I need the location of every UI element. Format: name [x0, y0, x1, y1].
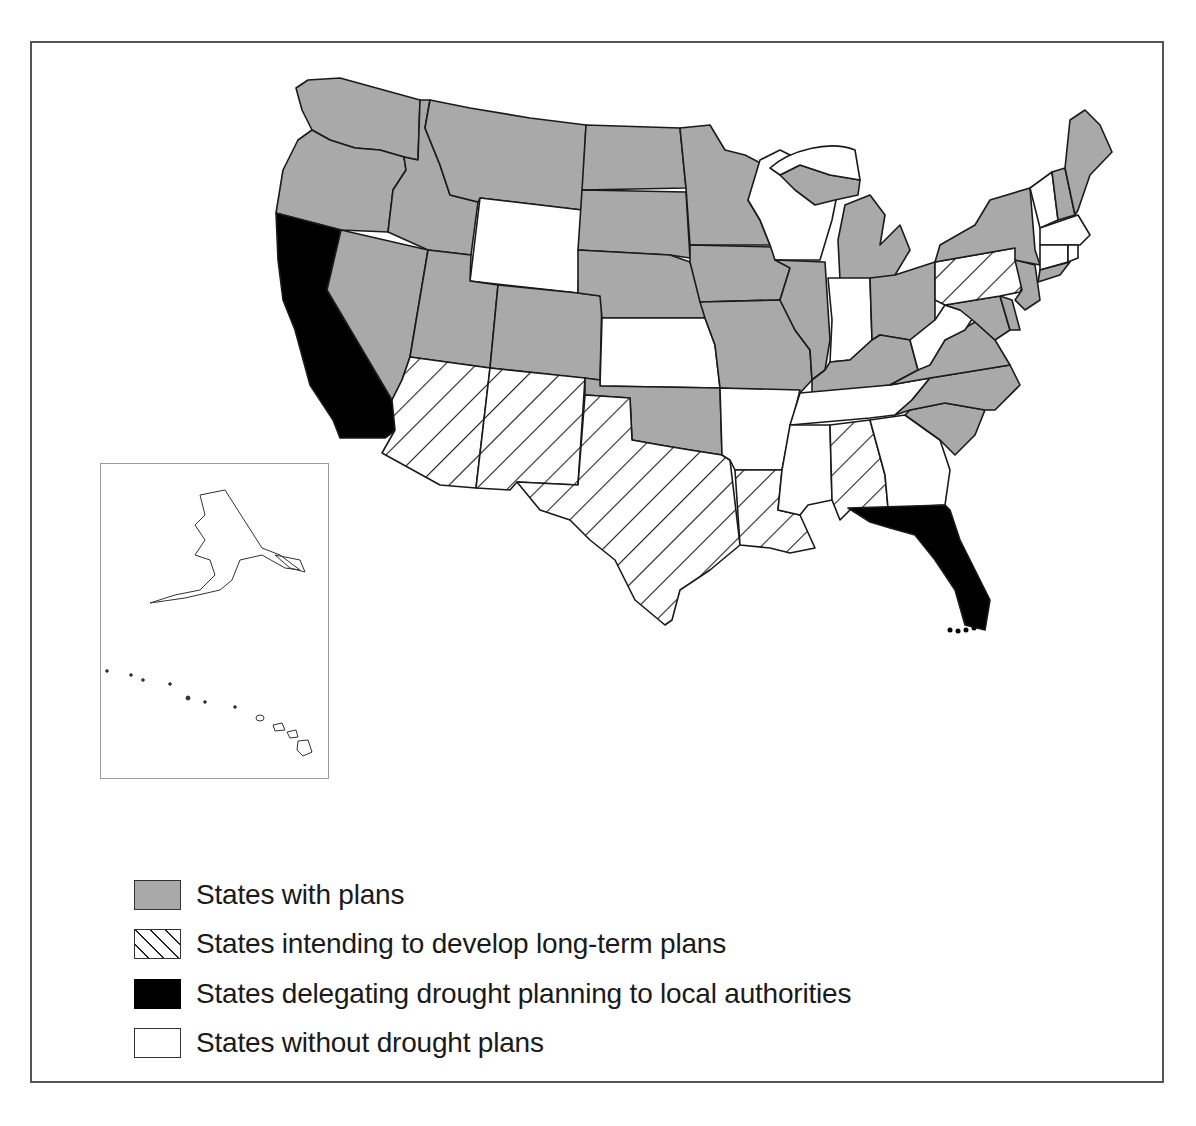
state-co — [490, 285, 602, 380]
state-nd — [582, 125, 686, 190]
legend-label: States intending to develop long-term pl… — [196, 928, 726, 960]
hatched-swatch-icon — [134, 929, 181, 959]
florida-keys — [948, 626, 977, 634]
state-ks — [600, 318, 720, 388]
legend-item-with-plans: States with plans — [134, 870, 851, 920]
state-wy — [470, 198, 582, 293]
legend-item-without: States without drought plans — [134, 1019, 851, 1069]
gray-swatch-icon — [134, 880, 181, 910]
state-mt — [425, 100, 586, 210]
state-ny — [935, 188, 1040, 265]
black-swatch-icon — [134, 979, 181, 1009]
white-swatch-icon — [134, 1028, 181, 1058]
map-legend: States with plans States intending to de… — [134, 870, 851, 1068]
state-ri — [1068, 245, 1078, 262]
state-fl — [848, 505, 990, 630]
legend-label: States with plans — [196, 879, 404, 911]
legend-label: States delegating drought planning to lo… — [196, 978, 851, 1010]
state-sd — [578, 190, 690, 258]
state-mi — [838, 195, 910, 282]
legend-item-delegating: States delegating drought planning to lo… — [134, 969, 851, 1019]
state-nm — [476, 368, 585, 490]
state-me — [1065, 110, 1112, 215]
legend-item-intending: States intending to develop long-term pl… — [134, 920, 851, 970]
legend-label: States without drought plans — [196, 1027, 544, 1059]
alaska-hawaii-inset — [100, 463, 329, 779]
